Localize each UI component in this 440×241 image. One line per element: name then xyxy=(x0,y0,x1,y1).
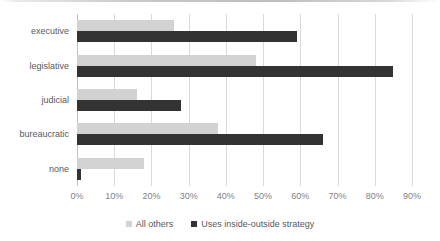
legend-item[interactable]: All others xyxy=(126,219,174,229)
bar xyxy=(77,20,174,31)
plot-area xyxy=(77,14,412,186)
bar xyxy=(77,100,181,111)
bar-group xyxy=(77,89,412,111)
category-label-bureaucratic: bureaucratic xyxy=(19,129,69,139)
bar xyxy=(77,89,137,100)
bar-group xyxy=(77,158,412,180)
bar xyxy=(77,169,81,180)
tick-label-30%: 30% xyxy=(169,191,209,201)
legend-item[interactable]: Uses inside-outside strategy xyxy=(191,219,314,229)
tick-label-0%: 0% xyxy=(57,191,97,201)
tick-label-20%: 20% xyxy=(131,191,171,201)
bar-group xyxy=(77,20,412,42)
legend-label: All others xyxy=(136,219,174,229)
bar xyxy=(77,158,144,169)
legend-swatch-icon xyxy=(191,221,197,227)
tick-label-60%: 60% xyxy=(280,191,320,201)
tick-label-80%: 80% xyxy=(355,191,395,201)
legend-swatch-icon xyxy=(126,221,132,227)
bar xyxy=(77,134,323,145)
horizontal-bar-chart: executivelegislativejudicialbureaucratic… xyxy=(0,0,440,241)
tick-label-50%: 50% xyxy=(243,191,283,201)
bar xyxy=(77,123,218,134)
tick-label-90%: 90% xyxy=(392,191,432,201)
legend-label: Uses inside-outside strategy xyxy=(201,219,314,229)
tick-label-10%: 10% xyxy=(94,191,134,201)
category-label-judicial: judicial xyxy=(41,95,69,105)
bar xyxy=(77,66,393,77)
tick-label-40%: 40% xyxy=(206,191,246,201)
category-label-legislative: legislative xyxy=(29,61,69,71)
category-label-none: none xyxy=(49,164,69,174)
bar-group xyxy=(77,123,412,145)
gridline-90 xyxy=(412,14,413,186)
tick-label-70%: 70% xyxy=(318,191,358,201)
category-label-executive: executive xyxy=(31,26,69,36)
chart-legend: All othersUses inside-outside strategy xyxy=(0,219,440,229)
bar xyxy=(77,55,256,66)
bar-group xyxy=(77,55,412,77)
bar xyxy=(77,31,297,42)
